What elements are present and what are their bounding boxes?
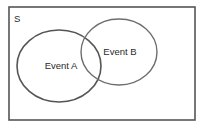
event-a-label: Event A [45, 60, 78, 71]
sample-space-label: S [14, 13, 20, 24]
venn-diagram: S Event A Event B [0, 0, 204, 126]
sample-space-rectangle [9, 7, 195, 120]
event-b-label: Event B [103, 46, 136, 57]
